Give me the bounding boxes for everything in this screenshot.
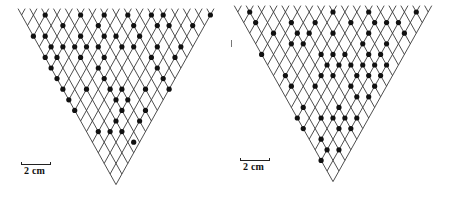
lattice-dot [360,41,365,46]
lattice-dot [295,31,300,36]
lattice-dot [324,147,329,152]
lattice-dot [155,23,160,28]
lattice-dot [372,84,377,89]
lattice-dot [108,129,113,134]
lattice-dot [384,62,389,67]
lattice-dot [78,34,83,39]
lattice-dot [336,62,341,67]
lattice-dot [84,87,89,92]
lattice-dot [342,52,347,57]
lattice-dot [78,55,83,60]
lattice-dot [149,12,154,17]
lattice-dot [190,23,195,28]
lattice-dot [330,31,335,36]
lattice-dot [143,87,148,92]
lattice-dot [336,126,341,131]
lattice-dot [155,65,160,70]
lattice-dot [378,73,383,78]
lattice-dot [319,52,324,57]
lattice-dot [155,44,160,49]
lattice-dot [372,62,377,67]
lattice-dot [384,20,389,25]
lattice-dot [336,105,341,110]
lattice-dot [119,108,124,113]
lattice-dot [43,55,48,60]
lattice-dot [49,44,54,49]
lattice-dot [172,55,177,60]
lattice-dot [137,34,142,39]
lattice-dot [125,12,130,17]
scale-bar-label: 2 cm [243,161,264,172]
lattice-dot [259,52,264,57]
lattice-dot [72,108,77,113]
lattice-dot [125,97,130,102]
lattice-dot [360,62,365,67]
lattice-dot [96,65,101,70]
lattice-dot [43,34,48,39]
lattice-dot [354,94,359,99]
lattice-dot [319,158,324,163]
lattice-dot [366,94,371,99]
lattice-dot [78,12,83,17]
lattice-dot [348,126,353,131]
lattice-dot [366,73,371,78]
lattice-dot [131,23,136,28]
lattice-dot [301,126,306,131]
lattice-dot [102,12,107,17]
lattice-dot [96,44,101,49]
lattice-panel-left: 2 cm [0,0,225,197]
lattice-dot [96,129,101,134]
lattice-dot [319,115,324,120]
lattice-dot [289,84,294,89]
lattice-dot [384,41,389,46]
lattice-dot [354,73,359,78]
lattice-dot [319,73,324,78]
lattice-dot [108,87,113,92]
lattice-dot [342,115,347,120]
lattice-dot [60,87,65,92]
lattice-dot [84,44,89,49]
lattice-dot [295,115,300,120]
lattice-dot [378,52,383,57]
lattice-dot [289,41,294,46]
lattice-dot [119,87,124,92]
lattice-dot [330,115,335,120]
lattice-dot [283,73,288,78]
lattice-dot [66,97,71,102]
lattice-dot [271,31,276,36]
lattice-dot [167,23,172,28]
lattice-dot [301,105,306,110]
lattice-dot [366,52,371,57]
lattice-dot [330,52,335,57]
lattice-dot [161,76,166,81]
lattice-dot [354,115,359,120]
lattice-dot [348,20,353,25]
lattice-dot [167,87,172,92]
lattice-dot [307,31,312,36]
lattice-dot [31,34,36,39]
lattice-dot [313,84,318,89]
lattice-dot [102,34,107,39]
lattice-dot [208,12,213,17]
lattice-dot [402,31,407,36]
lattice-dot [161,12,166,17]
lattice-dot [54,55,59,60]
lattice-dot [289,20,294,25]
lattice-dot [102,76,107,81]
lattice-dot [372,20,377,25]
lattice-dot [414,9,419,14]
lattice-dot [137,118,142,123]
lattice-dot [313,20,318,25]
lattice-dot [149,55,154,60]
lattice-dot [143,108,148,113]
lattice-dot [113,34,118,39]
lattice-dot [72,44,77,49]
lattice-dot [131,140,136,145]
lattice-dot [247,9,252,14]
lattice-dot [336,147,341,152]
lattice-dot [330,73,335,78]
lattice-dot [131,44,136,49]
scale-bar-label: 2 cm [24,165,45,176]
lattice-dot [60,23,65,28]
lattice-dot [119,44,124,49]
